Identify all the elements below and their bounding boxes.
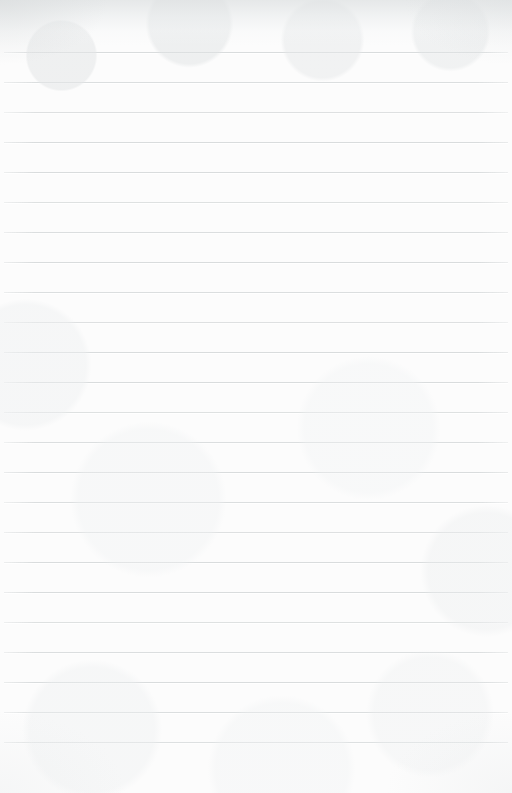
lined-paper-page <box>0 0 512 793</box>
ruled-line <box>4 622 508 623</box>
ruled-line <box>4 202 508 203</box>
ruled-line <box>4 232 508 233</box>
ruled-line <box>4 322 508 323</box>
ruled-line <box>4 562 508 563</box>
ruled-line <box>4 172 508 173</box>
ruled-line <box>4 442 508 443</box>
ruled-line <box>4 652 508 653</box>
ruled-line <box>4 682 508 683</box>
ruled-line <box>4 52 508 53</box>
ruled-line <box>4 112 508 113</box>
ruled-line <box>4 262 508 263</box>
ruled-line <box>4 502 508 503</box>
ruled-line <box>4 412 508 413</box>
ruled-line <box>4 592 508 593</box>
ruled-line <box>4 142 508 143</box>
ruled-lines-group <box>0 0 512 793</box>
ruled-line <box>4 352 508 353</box>
ruled-line <box>4 82 508 83</box>
ruled-line <box>4 532 508 533</box>
ruled-line <box>4 472 508 473</box>
ruled-line <box>4 712 508 713</box>
ruled-line <box>4 742 508 743</box>
ruled-line <box>4 382 508 383</box>
ruled-line <box>4 292 508 293</box>
